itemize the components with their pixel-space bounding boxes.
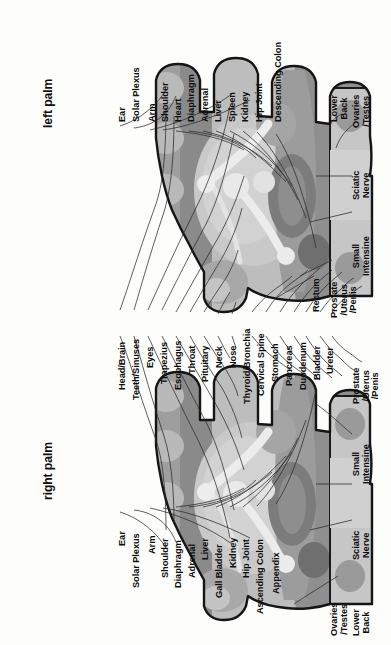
label-shoulder-right: Shoulder [161, 539, 170, 579]
label-prostate-left: Prostate /Uterus /Penis [330, 282, 359, 318]
label-small-intensine-right-line2: Intensine [362, 444, 372, 484]
label-stomach: Stomach [271, 343, 280, 382]
label-small-intensine-right: Small Intensine [352, 444, 371, 484]
label-throat: Throat [188, 346, 197, 374]
label-arm-left: Arm [148, 104, 157, 122]
label-sciatic-nerve-right-line2: Nerve [362, 531, 372, 560]
label-liver-left: Liver [214, 100, 223, 122]
label-lower-back-left: Lower Back [330, 95, 349, 122]
label-esophagus: Esophagus [174, 341, 183, 390]
panel-title-right-palm: right palm [42, 442, 54, 500]
label-head-brain: Head/Brain [118, 342, 127, 390]
label-diaphragm-right: Diaphragm [174, 540, 183, 588]
label-arm-right: Arm [148, 536, 157, 554]
label-adrenal-right: Adrenal [188, 544, 197, 578]
label-prostate-right-line3: /Penis [371, 368, 381, 404]
label-teeth-sinuses: Teeth/Sinuses [132, 339, 141, 400]
label-appendix-right: Appendix [272, 552, 281, 594]
label-trapezius: Trapezius [160, 342, 169, 384]
label-small-intensine-line2: Intensine [362, 236, 372, 276]
label-ureter: Ureter [326, 347, 335, 374]
label-solar-plexus-right: Solar Plexus [132, 533, 141, 588]
label-lower-back-line2: Back [340, 95, 350, 122]
label-lower-back-right-line2: Back [362, 609, 372, 636]
label-prostate-right: Prostate /Uterus /Penis [352, 368, 381, 404]
label-ear-left: Ear [118, 107, 127, 122]
label-gall-bladder-right: Gall Bladder [215, 544, 224, 598]
label-ear-right: Ear [118, 531, 127, 546]
label-ovaries-testes-right: Ovaries /Testes [330, 603, 349, 636]
label-hip-joint-right: Hip Joint [242, 539, 251, 578]
label-rectum-left: Rectum [312, 279, 321, 313]
label-ovaries-testes-line2: /Testes [362, 95, 372, 128]
label-lower-back-right: Lower Back [352, 609, 371, 636]
label-pituitary: Pituitary [201, 346, 210, 382]
label-ascending-colon-right: Ascending Colon [256, 539, 265, 614]
label-spleen-left: Spleen [228, 92, 237, 122]
label-prostate-line3: /Penis [349, 282, 359, 318]
label-neck: Neck [215, 346, 224, 368]
label-duodenum: Duodenum [299, 342, 308, 390]
label-thyroid-bronchia: Thyroid/Bronchia [243, 329, 252, 404]
label-kidney-left: Kidney [241, 92, 250, 122]
label-adrenal-left: Adrenal [201, 88, 210, 122]
panel-title-left-palm: left palm [42, 79, 54, 128]
label-heart-left: Heart [174, 99, 183, 122]
label-small-intensine-left: Small Intensine [352, 236, 371, 276]
label-nose: Nose [229, 346, 238, 368]
label-sciatic-nerve-line2: Nerve [362, 171, 372, 200]
label-ovaries-testes-right-line2: /Testes [340, 603, 350, 636]
label-bladder: Bladder [313, 346, 322, 380]
label-pancreas: Pancreas [285, 345, 294, 386]
label-diaphragm-left: Diaphragm [187, 74, 196, 122]
label-shoulder-left: Shoulder [161, 83, 170, 123]
reflexology-hand-chart: left palm right palm Ear Solar Plexus Ar… [0, 0, 391, 645]
label-solar-plexus-left: Solar Plexus [132, 67, 141, 122]
label-cervical-spine: Cervical Spine [257, 333, 266, 396]
label-hip-joint-left: Hip Joint [255, 83, 264, 122]
label-descending-colon-left: Descending Colon [274, 42, 283, 122]
label-sciatic-nerve-right: Sciatic Nerve [352, 531, 371, 560]
label-eyes: Eyes [146, 347, 155, 368]
label-ovaries-testes-left: Ovaries /Testes [352, 95, 371, 128]
label-kidney-right: Kidney [229, 538, 238, 568]
label-liver-right: Liver [201, 538, 210, 560]
label-sciatic-nerve-left: Sciatic Nerve [352, 171, 371, 200]
